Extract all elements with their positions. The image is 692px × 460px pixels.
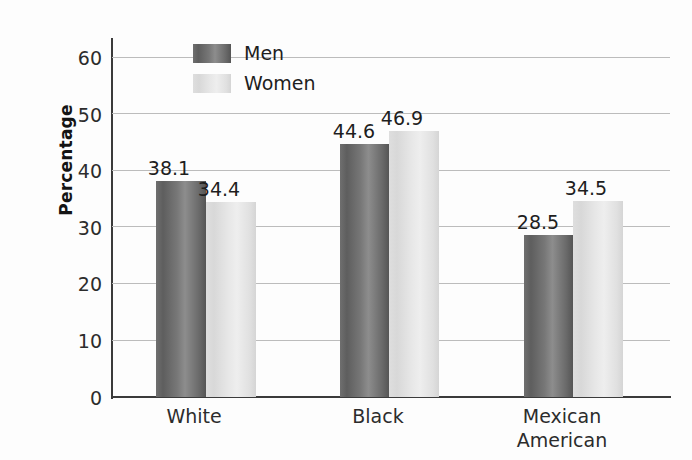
y-tick-40: 40 xyxy=(56,160,102,182)
bar-white-men[interactable] xyxy=(156,181,206,397)
legend-label-women: Women xyxy=(244,72,316,94)
value-label-black-women: 46.9 xyxy=(364,107,440,129)
legend-item-men[interactable]: Men xyxy=(193,40,316,66)
bar-black-men[interactable] xyxy=(340,144,389,397)
y-tick-60: 60 xyxy=(56,47,102,69)
y-tick-30: 30 xyxy=(56,217,102,239)
y-tick-0: 0 xyxy=(56,387,102,409)
legend-swatch-men-icon xyxy=(193,44,231,63)
y-tick-50: 50 xyxy=(56,104,102,126)
bar-mexican-american-women[interactable] xyxy=(573,201,623,397)
value-label-white-women: 34.4 xyxy=(181,178,257,200)
legend: Men Women xyxy=(193,40,316,100)
y-tick-20: 20 xyxy=(56,273,102,295)
x-tick-mexican-american: Mexican American xyxy=(504,404,620,452)
value-label-white-men: 38.1 xyxy=(131,157,207,179)
bar-black-women[interactable] xyxy=(389,131,439,397)
bar-chart-figure: Percentage 60 50 40 30 20 10 0 38.1 34.4… xyxy=(0,0,692,460)
legend-label-men: Men xyxy=(244,42,284,64)
x-tick-black: Black xyxy=(320,404,436,428)
value-label-mexican-american-men: 28.5 xyxy=(500,211,576,233)
legend-swatch-women-icon xyxy=(193,74,231,93)
legend-item-women[interactable]: Women xyxy=(193,70,316,96)
value-label-mexican-american-women: 34.5 xyxy=(548,177,624,199)
y-tick-10: 10 xyxy=(56,330,102,352)
x-tick-white: White xyxy=(136,404,252,428)
bar-white-women[interactable] xyxy=(206,202,256,397)
bar-mexican-american-men[interactable] xyxy=(524,235,573,397)
